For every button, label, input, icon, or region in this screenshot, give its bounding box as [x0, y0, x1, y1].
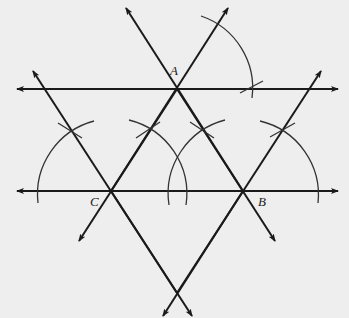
arc-tick-a — [240, 81, 263, 93]
geometry-diagram: A C B — [0, 0, 349, 318]
construction-arc-c-right — [129, 120, 187, 205]
label-a: A — [169, 63, 178, 78]
arc-tick-b-mid — [190, 122, 214, 138]
construction-arc-a — [201, 16, 253, 98]
line-right-outer-down — [163, 191, 243, 316]
label-b: B — [258, 194, 266, 209]
construction-arc-b-left — [168, 120, 225, 205]
arc-tick-c-left — [58, 123, 82, 138]
line-left-outer-down — [111, 191, 192, 316]
label-c: C — [90, 194, 99, 209]
